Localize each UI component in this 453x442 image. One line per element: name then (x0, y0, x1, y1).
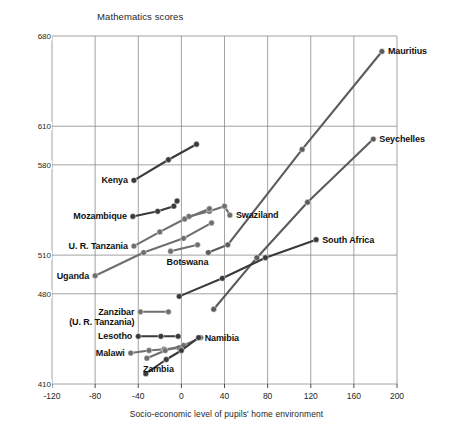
data-point (157, 229, 163, 235)
data-point (166, 309, 172, 315)
data-point (211, 306, 217, 312)
x-tick-200: 200 (390, 391, 404, 401)
data-point (379, 49, 385, 55)
x-tick-160: 160 (347, 391, 361, 401)
series-line-mozambique (133, 201, 177, 216)
data-point (174, 198, 180, 204)
series-label-swaziland: Swaziland (236, 210, 279, 220)
data-point (162, 348, 168, 354)
data-point (146, 348, 152, 354)
data-point (163, 357, 169, 363)
y-tick-510: 510 (26, 251, 52, 260)
mathematics-scores-chart: Mathematics scores 410480510580610680 -1… (0, 0, 453, 442)
x-tick-0: 0 (179, 391, 184, 401)
series-label-uganda: Uganda (57, 271, 89, 281)
data-point (182, 216, 188, 222)
data-point (128, 350, 134, 356)
series-label-kenya: Kenya (101, 175, 128, 185)
series-line-seychelles (214, 139, 374, 309)
data-point (313, 237, 319, 243)
series-label-south-africa: South Africa (322, 235, 374, 245)
data-point (155, 208, 161, 214)
series-label-seychelles: Seychelles (379, 134, 425, 144)
x-axis-title: Socio-economic level of pupils' home env… (0, 409, 453, 419)
data-point (131, 177, 137, 183)
data-point (207, 206, 213, 212)
chart-title: Mathematics scores (97, 11, 183, 22)
series-label-mauritius: Mauritius (388, 46, 427, 56)
y-tick-410: 410 (26, 380, 52, 389)
data-point (370, 136, 376, 142)
data-point (195, 242, 201, 248)
data-point (178, 348, 184, 354)
data-point (176, 293, 182, 299)
data-point (205, 250, 211, 256)
series-line-mauritius (208, 51, 382, 252)
x-tick-40: 40 (220, 391, 229, 401)
series-label-malawi: Malawi (96, 348, 125, 358)
data-point (168, 248, 174, 254)
series-line-kenya (134, 144, 197, 180)
y-tick-480: 480 (26, 289, 52, 298)
series-label-botswana: Botswana (167, 257, 209, 267)
series-label-u-r-tanzania: U. R. Tanzania (68, 241, 127, 251)
data-point (130, 214, 136, 220)
data-point (222, 203, 228, 209)
data-point (138, 309, 144, 315)
data-point (171, 203, 177, 209)
x-tick--120: -120 (43, 391, 60, 401)
data-point (175, 333, 181, 339)
x-tick-80: 80 (263, 391, 272, 401)
data-point (305, 199, 311, 205)
y-tick-580: 580 (26, 160, 52, 169)
data-point (92, 273, 98, 279)
x-tick--40: -40 (132, 391, 144, 401)
series-label-zanzibar-u-r-tanzania: Zanzibar(U. R. Tanzania) (69, 307, 134, 327)
series-label-zambia: Zambia (143, 364, 174, 374)
data-point (131, 243, 137, 249)
x-tick--80: -80 (89, 391, 101, 401)
data-point (209, 220, 215, 226)
y-tick-680: 680 (26, 32, 52, 41)
data-point (227, 212, 233, 218)
data-point (263, 255, 269, 261)
data-point (196, 335, 202, 341)
data-point (166, 157, 172, 163)
data-point (219, 275, 225, 281)
series-label-lesotho: Lesotho (98, 331, 132, 341)
y-tick-610: 610 (26, 122, 52, 131)
data-point (194, 141, 200, 147)
series-label-mozambique: Mozambique (73, 211, 127, 221)
plot-area: 410480510580610680 -120-80-4004080120160… (52, 36, 397, 384)
data-point (144, 355, 150, 361)
x-tick-120: 120 (304, 391, 318, 401)
data-point (141, 250, 147, 256)
series-label-namibia: Namibia (205, 333, 239, 343)
data-point (225, 242, 231, 248)
data-point (181, 235, 187, 241)
series-line-botswana (171, 245, 198, 251)
data-point (135, 333, 141, 339)
data-point (158, 333, 164, 339)
data-point (299, 147, 305, 153)
